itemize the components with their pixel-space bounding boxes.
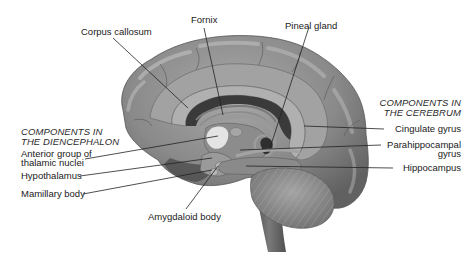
label-amygdaloid-body: Amygdaloid body xyxy=(148,212,221,222)
label-fornix: Fornix xyxy=(191,15,217,25)
label-hippocampus: Hippocampus xyxy=(403,163,461,173)
label-pineal-gland: Pineal gland xyxy=(285,21,337,31)
label-corpus-callosum: Corpus callosum xyxy=(81,27,152,37)
label-cingulate-gyrus: Cingulate gyrus xyxy=(395,124,461,134)
label-anterior-thalamic-line2: thalamic nuclei xyxy=(21,158,84,168)
cerebral-cortex xyxy=(122,36,369,209)
interthalamic-adhesion xyxy=(230,128,242,137)
label-parahippocampal-line2: gyrus xyxy=(438,149,461,159)
label-mamillary-body: Mamillary body xyxy=(21,189,85,199)
cerebrum-heading-line2: THE CEREBRUM xyxy=(384,108,461,118)
label-hypothalamus: Hypothalamus xyxy=(21,171,82,181)
diencephalon-heading-line2: THE DIENCEPHALON xyxy=(21,137,119,147)
